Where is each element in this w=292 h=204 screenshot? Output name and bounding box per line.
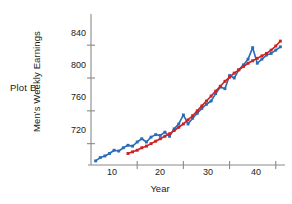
red-series-marker — [260, 54, 263, 57]
x-tick-label-40: 40 — [244, 167, 268, 177]
y-tick-label-840: 840 — [60, 28, 86, 38]
red-series-marker — [182, 123, 185, 126]
blue-series-marker — [154, 133, 157, 136]
blue-series-marker — [224, 87, 227, 90]
x-tick-label-20: 20 — [148, 167, 172, 177]
red-series-marker — [274, 45, 277, 48]
red-series-marker — [196, 109, 199, 112]
red-series-marker — [270, 49, 273, 52]
red-series-marker — [247, 62, 250, 65]
red-series-marker — [265, 52, 268, 55]
red-series-marker — [205, 100, 208, 103]
red-series-marker — [219, 85, 222, 88]
red-series-marker — [191, 114, 194, 117]
blue-series-marker — [177, 123, 180, 126]
red-series-marker — [154, 140, 157, 143]
blue-series-marker — [140, 137, 143, 140]
blue-series-marker — [163, 131, 166, 134]
blue-series-marker — [108, 152, 111, 155]
blue-series-marker — [122, 146, 125, 149]
data-series-group — [94, 40, 282, 163]
red-series-marker — [242, 65, 245, 68]
blue-series-marker — [94, 159, 97, 162]
red-series-marker — [279, 40, 282, 43]
blue-series-marker — [233, 77, 236, 80]
red-series-marker — [228, 76, 231, 79]
red-series-marker — [150, 142, 153, 145]
blue-series-marker — [187, 123, 190, 126]
blue-series-marker — [99, 156, 102, 159]
blue-series-marker — [136, 141, 139, 144]
red-series-marker — [140, 146, 143, 149]
red-series-marker — [256, 57, 259, 60]
red-series-marker — [159, 137, 162, 140]
red-series-marker — [233, 72, 236, 75]
blue-series — [94, 45, 282, 162]
blue-series-marker — [205, 103, 208, 106]
axes-group — [87, 14, 285, 169]
red-series-marker — [200, 104, 203, 107]
x-axis-tick-labels: 10 20 30 40 — [0, 167, 292, 181]
blue-series-marker — [117, 150, 120, 153]
y-axis-label: Men's Weekly Earnings — [31, 17, 42, 147]
blue-series-marker — [279, 45, 282, 48]
red-series-marker — [177, 126, 180, 129]
blue-series-marker — [274, 49, 277, 52]
red-series-marker — [136, 149, 139, 152]
chart-figure: Plot B Men's Weekly Earnings 840 800 760… — [0, 0, 292, 204]
x-tick-label-10: 10 — [100, 167, 124, 177]
x-tick-label-30: 30 — [196, 167, 220, 177]
blue-series-marker — [113, 149, 116, 152]
blue-series-marker — [247, 58, 250, 61]
blue-series-marker — [131, 145, 134, 148]
blue-series-marker — [210, 100, 213, 103]
y-tick-label-760: 760 — [60, 92, 86, 102]
red-series-marker — [127, 152, 130, 155]
x-axis-label: Year — [120, 183, 200, 194]
red-series-marker — [224, 80, 227, 83]
red-series-marker — [237, 68, 240, 71]
blue-series-marker — [270, 52, 273, 55]
red-series-marker — [131, 150, 134, 153]
y-tick-label-800: 800 — [60, 60, 86, 70]
red-series-marker — [163, 135, 166, 138]
blue-series-marker — [182, 113, 185, 116]
blue-series-line — [96, 47, 281, 161]
red-series-marker — [173, 129, 176, 132]
blue-series-marker — [256, 62, 259, 65]
blue-series-marker — [251, 46, 254, 49]
red-series-marker — [214, 90, 217, 93]
blue-series-marker — [159, 134, 162, 137]
red-series-marker — [145, 145, 148, 148]
blue-series-marker — [103, 155, 106, 158]
red-series-marker — [168, 132, 171, 135]
blue-series-marker — [145, 141, 148, 144]
red-series-marker — [210, 95, 213, 98]
blue-series-marker — [127, 144, 130, 147]
blue-series-marker — [150, 136, 153, 139]
y-tick-label-720: 720 — [60, 125, 86, 135]
red-series-marker — [187, 118, 190, 121]
blue-series-marker — [260, 58, 263, 61]
red-series-marker — [251, 59, 254, 62]
